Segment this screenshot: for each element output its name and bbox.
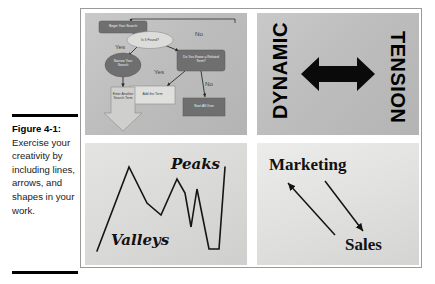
flowchart-branch-yes-left: Yes <box>115 43 125 50</box>
valleys-label: Valleys <box>111 231 169 249</box>
flowchart-branch-no-right: No <box>205 80 213 87</box>
caption-rule-top <box>12 114 78 117</box>
marketing-canvas: Marketing Sales <box>257 143 419 265</box>
peaks-label: Peaks <box>171 155 220 173</box>
flowchart-branch-yes-mid: Yes <box>154 68 164 75</box>
figure-number-label: Figure 4-1: <box>12 123 61 134</box>
caption-text: Figure 4-1: Exercise your creativity by … <box>12 122 80 217</box>
flowchart-shapes <box>85 13 247 135</box>
figure-caption: Figure 4-1: Exercise your creativity by … <box>12 114 80 217</box>
tension-canvas: DYNAMIC TENSION <box>257 13 419 135</box>
panel-dynamic-tension: DYNAMIC TENSION <box>257 13 419 135</box>
panel-search-flowchart: Begin Your Search Is It Found? Narrow Yo… <box>85 13 247 135</box>
flowchart-branch-no-top: No <box>195 30 203 37</box>
double-headed-arrow-icon <box>257 13 419 135</box>
panel-peaks-valleys: Peaks Valleys <box>85 143 247 265</box>
panel-marketing-sales: Marketing Sales <box>257 143 419 265</box>
peaks-canvas: Peaks Valleys <box>85 143 247 265</box>
caption-rule-bottom <box>12 271 78 274</box>
flowchart-canvas: Begin Your Search Is It Found? Narrow Yo… <box>85 13 247 135</box>
figure-panel-grid: Begin Your Search Is It Found? Narrow Yo… <box>85 13 417 263</box>
crossing-arrows <box>257 143 419 265</box>
figure-frame: Begin Your Search Is It Found? Narrow Yo… <box>80 8 422 268</box>
caption-body-text: Exercise your creativity by including li… <box>12 137 75 216</box>
